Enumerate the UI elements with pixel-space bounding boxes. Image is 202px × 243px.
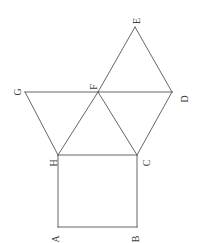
vertex-label-h: H — [49, 159, 59, 166]
vertex-label-f: F — [89, 84, 99, 90]
segment-H-F — [58, 92, 98, 155]
vertex-label-g: G — [13, 88, 23, 95]
segment-F-C — [98, 92, 137, 155]
vertex-label-d: D — [180, 95, 190, 102]
segment-C-D — [137, 92, 172, 155]
geometry-figure: ABCDEFGH — [0, 0, 202, 243]
segment-E-D — [135, 27, 172, 92]
vertex-label-a: A — [51, 235, 61, 242]
geometry-canvas — [0, 0, 202, 243]
vertex-label-b: B — [131, 236, 141, 243]
vertex-label-c: C — [142, 160, 152, 167]
segment-G-H — [25, 92, 58, 155]
vertex-label-e: E — [132, 18, 142, 24]
segment-F-E — [98, 27, 135, 92]
